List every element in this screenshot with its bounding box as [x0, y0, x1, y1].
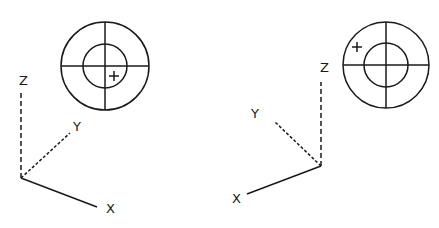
x-axis: [247, 166, 321, 194]
z-axis-label: Z: [320, 60, 329, 75]
y-axis-label: Y: [250, 106, 259, 121]
plus-marker-icon: [352, 42, 362, 52]
diagram-canvas: Z Y X Z Y X: [0, 0, 439, 228]
left-view: Z Y X: [19, 22, 149, 216]
x-axis-label: X: [106, 201, 115, 216]
x-axis-label: X: [232, 191, 241, 206]
axis-triad: Z Y X: [19, 73, 115, 216]
y-axis: [275, 122, 321, 166]
y-axis-label: Y: [72, 119, 81, 134]
target-crosshair: [61, 22, 149, 110]
axis-triad: Z Y X: [232, 60, 329, 206]
y-axis: [21, 133, 70, 178]
z-axis-label: Z: [19, 73, 28, 88]
right-view: Z Y X: [232, 22, 429, 206]
x-axis: [21, 178, 97, 207]
target-crosshair: [343, 22, 429, 108]
plus-marker-icon: [109, 71, 119, 81]
